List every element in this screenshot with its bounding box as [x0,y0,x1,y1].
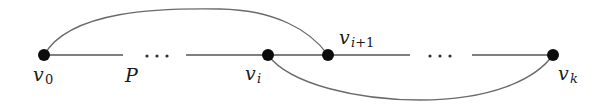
svg-text:k: k [570,71,578,86]
svg-text:i+1: i+1 [351,35,374,50]
node-vi-plus-1 [322,49,334,61]
svg-text:v: v [558,62,569,84]
svg-text:0: 0 [45,72,53,87]
ellipsis-right [428,54,451,57]
path-label-P: P [124,64,139,86]
svg-text:v: v [245,62,256,84]
label-vk: v k [558,62,578,86]
node-vi [262,49,274,61]
path-diagram: v 0 P v i v i+1 v k [0,0,605,105]
label-v0: v 0 [33,63,53,87]
node-vk [547,49,559,61]
svg-text:i: i [257,71,261,86]
ellipsis-left [145,54,168,57]
label-vi-plus-1: v i+1 [339,26,374,50]
node-v0 [38,49,50,61]
label-vi: v i [245,62,261,86]
svg-text:v: v [339,26,350,48]
arc-vi-to-vk [268,55,553,100]
svg-text:v: v [33,63,44,85]
arc-v0-to-vi-plus-1 [44,9,328,55]
